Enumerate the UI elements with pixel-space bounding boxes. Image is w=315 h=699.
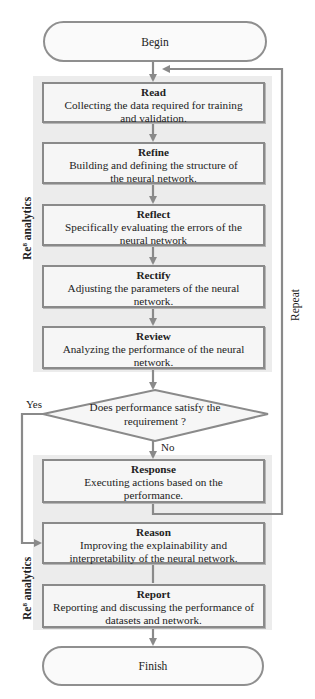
begin-label: Begin (141, 36, 168, 48)
group-label-prefix: Re (21, 247, 33, 260)
group-label-bottom: Re8 analytics (21, 543, 34, 633)
finish-label: Finish (139, 660, 168, 672)
step-desc: Collecting the data required for trainin… (44, 99, 263, 125)
step-rectify: Rectify Adjusting the parameters of the … (42, 265, 265, 308)
step-title: Review (44, 330, 263, 343)
step-desc: Reporting and discussing the performance… (44, 601, 263, 627)
group-label-sup: 8 (21, 603, 29, 607)
step-desc: Improving the explainability and interpr… (44, 539, 263, 565)
step-desc: Adjusting the parameters of the neural n… (44, 282, 263, 308)
step-report: Report Reporting and discussing the perf… (42, 584, 265, 628)
step-title: Reflect (44, 208, 263, 221)
repeat-label: Repeat (289, 285, 301, 325)
begin-terminal: Begin (43, 21, 267, 62)
step-title: Rectify (44, 269, 263, 282)
decision-question: Does performance satisfy the requirement… (80, 400, 230, 428)
group-label-sup: 8 (21, 243, 29, 247)
step-refine: Refine Building and defining the structu… (42, 142, 265, 184)
step-reason: Reason Improving the explainability and … (42, 522, 265, 564)
step-title: Reason (44, 526, 263, 539)
group-label-suffix: analytics (21, 557, 33, 603)
step-title: Read (44, 86, 263, 99)
group-label-top: Re8 analytics (21, 183, 34, 273)
step-review: Review Analyzing the performance of the … (42, 326, 265, 369)
step-title: Refine (44, 146, 263, 159)
step-title: Response (44, 463, 263, 476)
step-desc: Executing actions based on the performan… (44, 476, 263, 502)
step-response: Response Executing actions based on the … (42, 459, 265, 503)
group-label-suffix: analytics (21, 197, 33, 243)
group-label-prefix: Re (21, 607, 33, 620)
decision-yes-label: Yes (26, 398, 42, 410)
finish-terminal: Finish (42, 646, 264, 686)
step-read: Read Collecting the data required for tr… (42, 82, 265, 123)
step-desc: Specifically evaluating the errors of th… (44, 221, 263, 247)
step-reflect: Reflect Specifically evaluating the erro… (42, 204, 265, 246)
decision-no-label: No (161, 441, 174, 453)
step-title: Report (44, 588, 263, 601)
step-desc: Building and defining the structure of t… (44, 159, 263, 185)
step-desc: Analyzing the performance of the neural … (44, 343, 263, 369)
